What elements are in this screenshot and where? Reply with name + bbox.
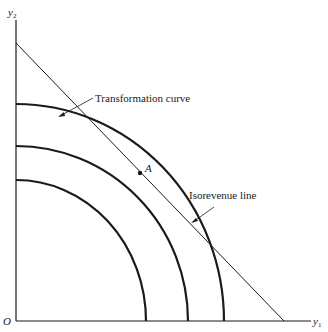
x-axis-subscript: 1 <box>318 321 322 329</box>
transformation-curve-diagram: A Transformation curve Isorevenue line y… <box>0 0 328 332</box>
outer-transformation-curve <box>16 104 224 321</box>
isorevenue-line <box>16 43 284 321</box>
transformation-curve-label: Transformation curve <box>95 92 190 104</box>
origin-label: O <box>3 315 11 327</box>
inner-transformation-curve <box>16 180 146 321</box>
x-axis-label: y1 <box>312 315 322 329</box>
middle-transformation-curve <box>16 146 188 321</box>
tangent-point-a <box>138 171 142 175</box>
transformation-curve-arrowhead <box>58 112 65 117</box>
y-axis-label: y2 <box>7 6 17 20</box>
point-a-label: A <box>144 162 152 174</box>
y-axis-subscript: 2 <box>13 12 17 20</box>
isorevenue-line-label: Isorevenue line <box>189 189 257 201</box>
